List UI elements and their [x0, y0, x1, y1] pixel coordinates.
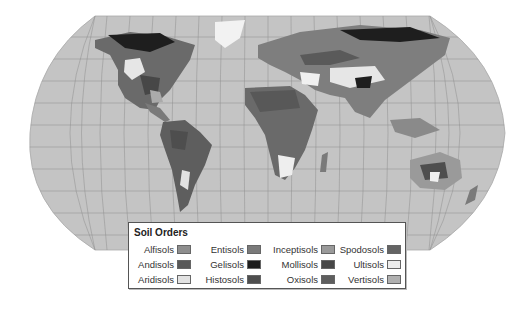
swatch-ultisols [387, 260, 401, 269]
legend-item-aridisols: Aridisols [133, 273, 191, 285]
swatch-andisols [177, 260, 191, 269]
legend-item-andisols: Andisols [133, 258, 191, 270]
legend-item-vertisols: Vertisols [337, 273, 401, 285]
legend-item-oxisols: Oxisols [263, 273, 335, 285]
swatch-entisols [247, 245, 261, 254]
swatch-vertisols [387, 275, 401, 284]
legend-item-histosols: Histosols [193, 273, 261, 285]
swatch-inceptisols [321, 245, 335, 254]
legend-item-inceptisols: Inceptisols [263, 243, 335, 255]
swatch-histosols [247, 275, 261, 284]
legend-item-spodosols: Spodosols [337, 243, 401, 255]
swatch-spodosols [387, 245, 401, 254]
legend-item-entisols: Entisols [193, 243, 261, 255]
swatch-gelisols [247, 260, 261, 269]
swatch-aridisols [177, 275, 191, 284]
legend-item-alfisols: Alfisols [133, 243, 191, 255]
legend: Soil Orders Alfisols Andisols Aridisols … [128, 222, 406, 289]
swatch-oxisols [321, 275, 335, 284]
legend-title: Soil Orders [134, 227, 188, 238]
legend-item-mollisols: Mollisols [263, 258, 335, 270]
legend-item-gelisols: Gelisols [193, 258, 261, 270]
swatch-alfisols [177, 245, 191, 254]
swatch-mollisols [321, 260, 335, 269]
legend-item-ultisols: Ultisols [337, 258, 401, 270]
